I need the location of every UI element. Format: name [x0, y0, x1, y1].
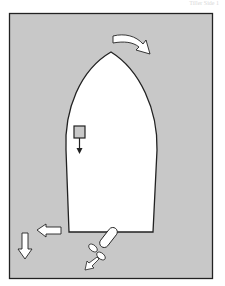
- boat-diagram: [0, 0, 225, 286]
